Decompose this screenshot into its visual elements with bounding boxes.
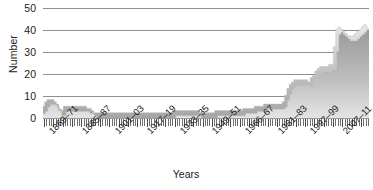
x-tick (147, 119, 148, 127)
x-tick (177, 119, 178, 126)
x-tick (142, 119, 143, 126)
x-tick (296, 119, 297, 127)
x-tick (237, 119, 238, 126)
y-tick-label: 40 (24, 25, 36, 35)
x-tick (165, 119, 166, 127)
x-tick (53, 119, 54, 127)
x-tick (107, 119, 108, 126)
x-tick (172, 119, 173, 126)
y-axis-tick-labels: 01020304050 (0, 0, 40, 135)
x-tick (130, 119, 131, 126)
x-tick (44, 119, 45, 127)
x-tick (189, 119, 190, 126)
x-tick (58, 119, 59, 126)
x-tick (163, 119, 164, 126)
x-tick (219, 119, 220, 126)
x-tick (230, 119, 231, 127)
x-tick (307, 119, 308, 126)
x-tick (207, 119, 208, 126)
x-tick (70, 119, 71, 126)
x-tick (235, 119, 236, 126)
x-tick (60, 119, 61, 126)
x-tick (184, 119, 185, 127)
x-tick (251, 119, 252, 126)
x-tick (293, 119, 294, 126)
x-tick (93, 119, 94, 126)
x-tick (102, 119, 103, 126)
x-tick (340, 119, 341, 126)
y-tick-label: 50 (24, 3, 36, 13)
x-tick (356, 119, 357, 126)
x-tick (268, 119, 269, 127)
x-tick (326, 119, 327, 126)
x-tick (161, 119, 162, 126)
x-tick (209, 119, 210, 126)
x-tick (244, 119, 245, 126)
x-tick (254, 119, 255, 126)
plot-area (43, 8, 369, 118)
x-tick (298, 119, 299, 126)
x-tick (228, 119, 229, 126)
x-tick (363, 119, 364, 126)
x-tick (156, 119, 157, 127)
x-tick (144, 119, 145, 126)
x-tick (46, 119, 47, 126)
x-tick (223, 119, 224, 126)
x-tick (191, 119, 192, 126)
x-tick (342, 119, 343, 127)
x-tick (114, 119, 115, 126)
x-tick (86, 119, 87, 126)
x-tick (226, 119, 227, 126)
x-tick (282, 119, 283, 126)
x-tick (314, 119, 315, 127)
x-tick (193, 119, 194, 127)
x-tick (133, 119, 134, 126)
x-tick (112, 119, 113, 126)
x-tick (91, 119, 92, 127)
x-tick (179, 119, 180, 126)
x-tick (247, 119, 248, 126)
x-tick (196, 119, 197, 126)
x-tick (56, 119, 57, 126)
x-tick (81, 119, 82, 127)
x-tick (289, 119, 290, 126)
x-tick (95, 119, 96, 126)
x-tick (49, 119, 50, 126)
x-tick (242, 119, 243, 126)
x-tick (100, 119, 101, 127)
x-tick (109, 119, 110, 127)
x-tick (121, 119, 122, 126)
x-tick (119, 119, 120, 127)
x-tick (249, 119, 250, 127)
x-tick (72, 119, 73, 127)
y-tick-label: 30 (24, 47, 36, 57)
x-tick (277, 119, 278, 127)
x-tick (368, 119, 369, 126)
x-tick (265, 119, 266, 126)
x-tick (303, 119, 304, 126)
x-tick (151, 119, 152, 126)
x-tick (258, 119, 259, 127)
x-tick (366, 119, 367, 126)
x-tick (338, 119, 339, 126)
x-tick (333, 119, 334, 127)
x-tick (279, 119, 280, 126)
x-axis-ticks (43, 119, 369, 127)
x-tick (154, 119, 155, 126)
x-tick (212, 119, 213, 127)
x-tick (170, 119, 171, 126)
x-tick (168, 119, 169, 126)
x-tick (319, 119, 320, 126)
x-tick (116, 119, 117, 126)
x-tick (349, 119, 350, 126)
x-tick (328, 119, 329, 126)
x-tick (291, 119, 292, 126)
x-tick (233, 119, 234, 126)
x-tick (84, 119, 85, 126)
x-tick (135, 119, 136, 126)
x-tick (331, 119, 332, 126)
area-series (43, 8, 369, 118)
x-tick (137, 119, 138, 127)
x-tick (158, 119, 159, 126)
